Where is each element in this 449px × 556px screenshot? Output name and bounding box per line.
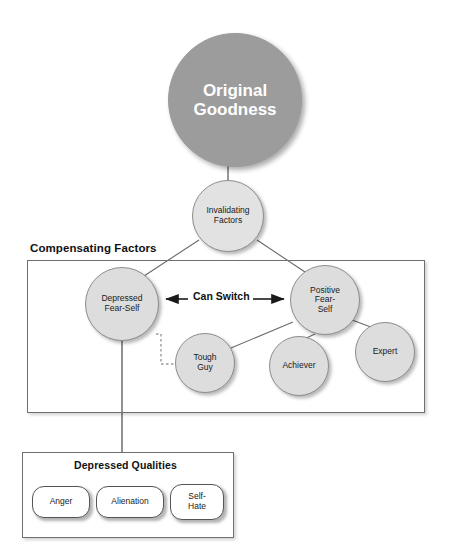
group-title-compensating-factors: Compensating Factors — [30, 242, 157, 254]
node-alienation-label: Alienation — [109, 497, 150, 507]
node-tough-guy-label: Tough Guy — [191, 353, 218, 372]
node-self-hate[interactable]: Self- Hate — [170, 484, 224, 520]
group-title-depressed-qualities: Depressed Qualities — [74, 459, 177, 471]
node-alienation[interactable]: Alienation — [96, 486, 164, 518]
node-expert-label: Expert — [371, 347, 400, 357]
node-positive-fear-self-label: Positive Fear- Self — [308, 286, 342, 315]
can-switch-label: Can Switch — [190, 290, 253, 302]
node-anger[interactable]: Anger — [32, 486, 90, 518]
node-invalidating-factors[interactable]: Invalidating Factors — [192, 180, 264, 252]
node-anger-label: Anger — [48, 497, 75, 507]
node-positive-fear-self[interactable]: Positive Fear- Self — [290, 265, 360, 335]
node-achiever-label: Achiever — [280, 361, 317, 371]
node-expert[interactable]: Expert — [355, 322, 415, 382]
node-achiever[interactable]: Achiever — [269, 336, 329, 396]
node-tough-guy[interactable]: Tough Guy — [175, 333, 235, 393]
node-original-goodness-label: Original Goodness — [191, 81, 278, 119]
node-invalidating-factors-label: Invalidating Factors — [204, 206, 251, 225]
node-self-hate-label: Self- Hate — [186, 492, 208, 511]
node-original-goodness[interactable]: Original Goodness — [168, 33, 302, 167]
node-depressed-fear-self[interactable]: Depressed Fear-Self — [85, 267, 159, 341]
node-depressed-fear-self-label: Depressed Fear-Self — [99, 294, 144, 313]
diagram-canvas: Original Goodness Invalidating Factors C… — [0, 0, 449, 556]
